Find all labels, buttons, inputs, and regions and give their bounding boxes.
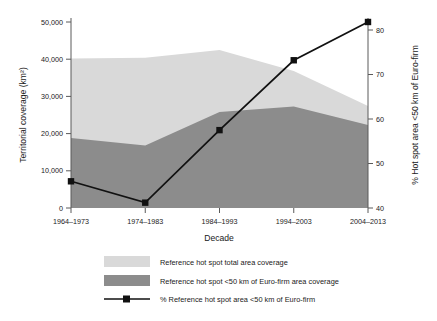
- chart-svg: 010,00020,00030,00040,00050,000 40506070…: [0, 0, 437, 321]
- x-axis-ticks: 1964–19731974–19831984–19931994–20032004…: [53, 208, 386, 226]
- chart-container: 010,00020,00030,00040,00050,000 40506070…: [0, 0, 437, 321]
- y-tick-label-right: 80: [376, 26, 384, 35]
- y-tick-label-right: 70: [376, 70, 384, 79]
- x-tick-label: 1994–2003: [276, 217, 312, 226]
- legend-label-percent: % Reference hot spot area <50 km of Euro…: [160, 295, 315, 304]
- x-tick-label: 2004–2013: [350, 217, 386, 226]
- percent-line-marker: [291, 57, 297, 63]
- x-axis-title: Decade: [204, 233, 234, 243]
- y-tick-label-left: 20,000: [41, 129, 63, 138]
- y-tick-label-right: 40: [376, 204, 384, 213]
- percent-line-marker: [142, 199, 148, 205]
- y-tick-label-left: 30,000: [41, 92, 63, 101]
- y-tick-label-right: 50: [376, 159, 384, 168]
- chart-legend: Reference hot spot total area coverage R…: [104, 256, 339, 304]
- legend-swatch-total-area: [104, 256, 150, 267]
- y-axis-right-title: % Hot spot area <50 km of Euro-firm: [410, 45, 420, 185]
- y-tick-label-left: 10,000: [41, 166, 63, 175]
- y-axis-right-ticks: 4050607080: [368, 26, 384, 213]
- x-tick-label: 1964–1973: [53, 217, 89, 226]
- legend-marker-percent: [123, 296, 130, 303]
- legend-label-near-euro-firm-area: Reference hot spot <50 km of Euro-firm a…: [160, 277, 339, 286]
- y-tick-label-left: 0: [59, 204, 63, 213]
- percent-line-marker: [68, 178, 74, 184]
- legend-label-total-area: Reference hot spot total area coverage: [160, 258, 288, 267]
- percent-line-marker: [365, 19, 371, 25]
- y-tick-label-left: 40,000: [41, 55, 63, 64]
- y-tick-label-right: 60: [376, 115, 384, 124]
- y-axis-left-ticks: 010,00020,00030,00040,00050,000: [41, 18, 71, 213]
- y-tick-label-left: 50,000: [41, 18, 63, 27]
- x-tick-label: 1974–1983: [127, 217, 163, 226]
- x-tick-label: 1984–1993: [202, 217, 238, 226]
- legend-swatch-near-euro-firm-area: [104, 275, 150, 286]
- y-axis-left-title: Territorial coverage (km²): [18, 67, 28, 163]
- percent-line-marker: [216, 127, 222, 133]
